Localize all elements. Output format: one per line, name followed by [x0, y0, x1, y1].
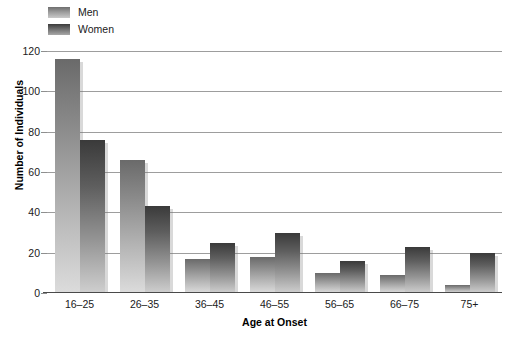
legend-label-women: Women — [78, 24, 114, 35]
x-tick-label-56-65: 56–65 — [315, 298, 365, 312]
legend-swatch-women-icon — [48, 24, 70, 35]
legend-item-men: Men — [48, 6, 114, 19]
bar-men-56-65 — [315, 273, 340, 293]
y-tick-label-120: 120 — [22, 45, 40, 57]
chart-legend: Men Women — [48, 6, 114, 36]
legend-label-men: Men — [78, 7, 98, 18]
x-tick-label-36-45: 36–45 — [185, 298, 235, 312]
bar-men-66-75 — [380, 275, 405, 293]
x-tick-label-46-55: 46–55 — [250, 298, 300, 312]
bar-group-75plus — [445, 51, 495, 293]
bar-men-46-55 — [250, 257, 275, 293]
y-tick-mark-0 — [41, 293, 47, 294]
bar-men-26-35 — [120, 160, 145, 293]
bar-women-46-55 — [275, 233, 300, 294]
bar-women-16-25 — [80, 140, 105, 293]
y-tick-label-0: 0 — [34, 287, 40, 299]
y-axis-title: Number of Individuals — [13, 60, 25, 210]
bar-group-56-65 — [315, 51, 365, 293]
y-tick-label-20: 20 — [28, 247, 40, 259]
y-tick-label-80: 80 — [28, 126, 40, 138]
plot-area — [47, 51, 502, 293]
x-axis-tick-labels: 16–25 26–35 36–45 46–55 56–65 66–75 75+ — [47, 298, 502, 312]
x-axis-title: Age at Onset — [47, 316, 502, 328]
y-tick-label-40: 40 — [28, 206, 40, 218]
bar-women-66-75 — [405, 247, 430, 293]
bar-chart: Men Women 120 100 80 60 40 20 0 Number o… — [0, 0, 508, 337]
bar-women-56-65 — [340, 261, 365, 293]
x-axis-baseline — [43, 292, 502, 293]
y-tick-label-100: 100 — [22, 85, 40, 97]
bar-men-36-45 — [185, 259, 210, 293]
bar-groups — [47, 51, 502, 293]
x-tick-label-16-25: 16–25 — [55, 298, 105, 312]
legend-item-women: Women — [48, 23, 114, 36]
bar-women-36-45 — [210, 243, 235, 293]
x-tick-label-26-35: 26–35 — [120, 298, 170, 312]
x-tick-label-75plus: 75+ — [445, 298, 495, 312]
bar-women-26-35 — [145, 206, 170, 293]
legend-swatch-men-icon — [48, 7, 70, 18]
bar-men-16-25 — [55, 59, 80, 293]
bar-group-16-25 — [55, 51, 105, 293]
y-tick-label-60: 60 — [28, 166, 40, 178]
bar-group-36-45 — [185, 51, 235, 293]
bar-group-66-75 — [380, 51, 430, 293]
bar-group-46-55 — [250, 51, 300, 293]
x-tick-label-66-75: 66–75 — [380, 298, 430, 312]
bar-group-26-35 — [120, 51, 170, 293]
bar-women-75plus — [470, 253, 495, 293]
